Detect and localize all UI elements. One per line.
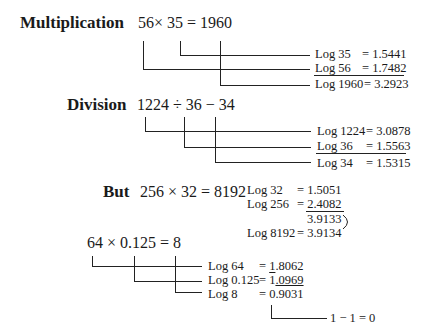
log-arithmetic-diagram: Multiplication 56× 35 = 1960 Log 35 = 1.…: [0, 0, 428, 333]
connector-line: [175, 292, 202, 293]
result-text: 1 − 1 = 0: [330, 312, 375, 325]
log-value: = 0.9031: [259, 288, 304, 301]
log-value-mantissa: .0969: [275, 273, 303, 287]
connector-line: [175, 256, 176, 292]
log-label: Log 8: [208, 288, 238, 301]
log-value: = 1.0969: [259, 274, 304, 287]
connector-line: [92, 266, 202, 267]
log-label: Log 64: [208, 260, 244, 273]
connector-line: [134, 281, 202, 282]
connector-line: [134, 256, 135, 282]
connector-line: [92, 256, 93, 266]
log-value-prefix: =: [259, 273, 269, 287]
connector-line: [271, 318, 327, 319]
log-label: Log 0.125: [208, 274, 259, 287]
log-value-mantissa: 0.9031: [269, 287, 303, 301]
log-value-prefix: =: [259, 287, 269, 301]
fraction-equation: 64 × 0.125 = 8: [87, 235, 181, 251]
log-value: = 1.8062: [259, 260, 304, 273]
connector-line: [271, 305, 272, 318]
